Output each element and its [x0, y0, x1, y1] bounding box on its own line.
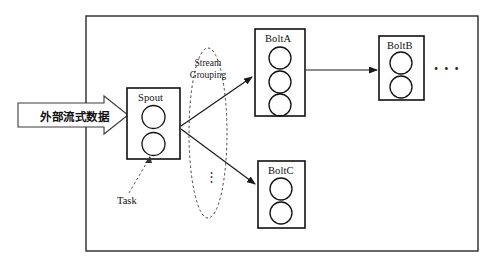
edge-spout-to-bolt-c	[181, 129, 255, 184]
bolt-b-label: BoltB	[387, 41, 413, 52]
bolt-c-label: BoltC	[268, 166, 294, 177]
grouping-vertical-ellipsis: ⋮	[205, 170, 218, 183]
stream-grouping-label-line2: Grouping	[178, 70, 238, 81]
external-stream-data-label: 外部流式数据	[40, 108, 109, 124]
diagram-canvas: 外部流式数据 Spout BoltA BoltB BoltC Stream Gr…	[0, 0, 499, 265]
more-bolts-ellipsis: • • •	[434, 62, 460, 77]
diagram-vector-layer	[0, 0, 499, 265]
bolt-a-label: BoltA	[265, 34, 291, 45]
task-callout-label: Task	[117, 196, 137, 207]
stream-grouping-label-line1: Stream	[178, 58, 238, 69]
edge-spout-to-bolt-a	[181, 77, 252, 126]
spout-label: Spout	[138, 93, 163, 104]
